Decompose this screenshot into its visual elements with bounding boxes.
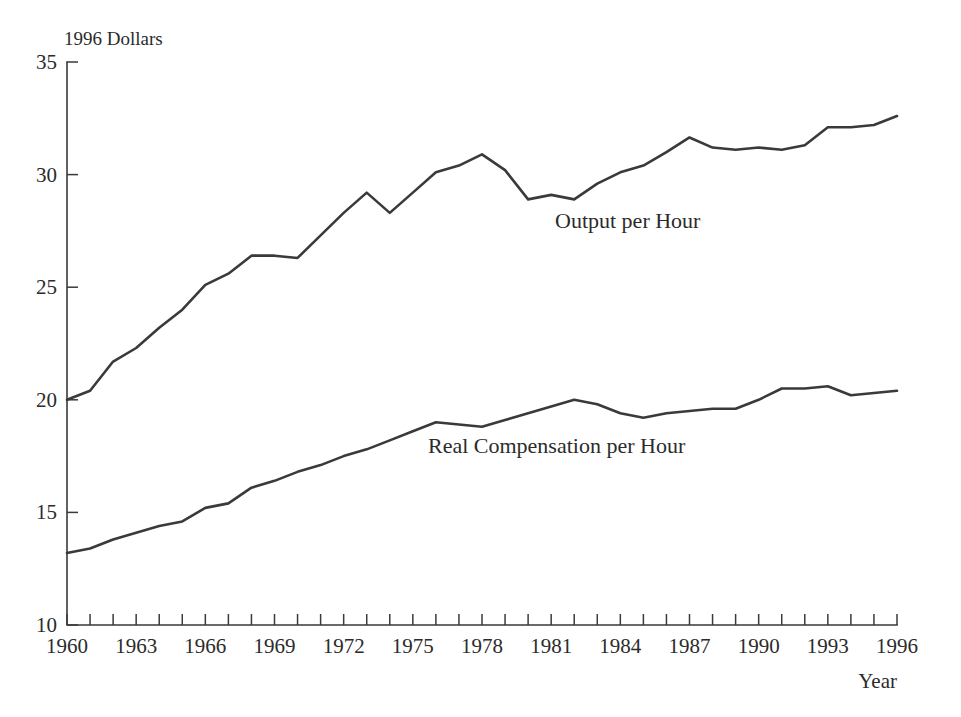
x-tick-label: 1984 <box>599 634 642 658</box>
x-tick-label: 1960 <box>46 634 88 658</box>
line-chart: 1996 Dollars 101520253035 19601963196619… <box>0 0 961 717</box>
y-tick-label: 35 <box>36 50 57 74</box>
x-tick-label: 1969 <box>254 634 296 658</box>
series-lines <box>67 116 897 553</box>
y-tick-label: 20 <box>36 388 57 412</box>
x-tick-label: 1966 <box>184 634 226 658</box>
y-axis-unit-label: 1996 Dollars <box>64 28 163 49</box>
x-axis-title: Year <box>858 669 897 693</box>
chart-container: 1996 Dollars 101520253035 19601963196619… <box>0 0 961 717</box>
x-tick-label: 1978 <box>461 634 503 658</box>
x-tick-label: 1963 <box>115 634 157 658</box>
x-tick-label: 1987 <box>669 634 711 658</box>
x-tick-label: 1993 <box>807 634 849 658</box>
x-tick-label: 1996 <box>876 634 918 658</box>
series-label-1: Output per Hour <box>555 208 701 233</box>
series-annotations: Output per HourReal Compensation per Hou… <box>428 208 701 458</box>
y-tick-label: 25 <box>36 275 57 299</box>
x-tick-label: 1981 <box>530 634 572 658</box>
series-label-2: Real Compensation per Hour <box>428 433 686 458</box>
x-tick-label: 1972 <box>323 634 365 658</box>
x-tick-label: 1990 <box>738 634 780 658</box>
series-line-1 <box>67 116 897 400</box>
y-axis: 101520253035 <box>36 50 78 637</box>
x-axis: 1960196319661969197219751978198119841987… <box>46 614 918 658</box>
y-tick-label: 30 <box>36 163 57 187</box>
x-tick-label: 1975 <box>392 634 434 658</box>
axis-frame <box>67 62 897 625</box>
series-line-2 <box>67 386 897 553</box>
y-tick-label: 15 <box>36 500 57 524</box>
